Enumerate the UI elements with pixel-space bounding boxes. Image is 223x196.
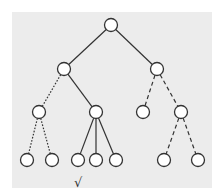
tree-node — [192, 154, 205, 167]
checkmark-annotation: √ — [74, 176, 82, 189]
tree-node — [137, 106, 150, 119]
tree-node — [58, 63, 71, 76]
tree-node — [151, 63, 164, 76]
tree-node — [158, 154, 171, 167]
tree-node — [72, 154, 85, 167]
edge-dashed — [183, 118, 196, 154]
tree-node — [175, 106, 188, 119]
edge-solid — [69, 29, 107, 64]
edge-solid — [99, 118, 114, 154]
tree-node — [90, 154, 103, 167]
edge-solid — [116, 29, 153, 64]
edge-solid — [80, 118, 93, 154]
edge-dashed — [145, 75, 155, 106]
tree-node — [33, 106, 46, 119]
tree-node — [110, 154, 123, 167]
edge-dotted — [41, 118, 51, 153]
edge-dotted — [42, 75, 60, 107]
tree-node — [21, 154, 34, 167]
tree-node — [46, 154, 59, 167]
tree-node — [90, 106, 103, 119]
tree-node — [105, 19, 118, 32]
edge-solid — [68, 74, 92, 107]
tree-diagram — [0, 0, 223, 196]
edge-dashed — [160, 75, 178, 107]
edge-dashed — [166, 118, 179, 154]
edge-dotted — [29, 118, 38, 153]
